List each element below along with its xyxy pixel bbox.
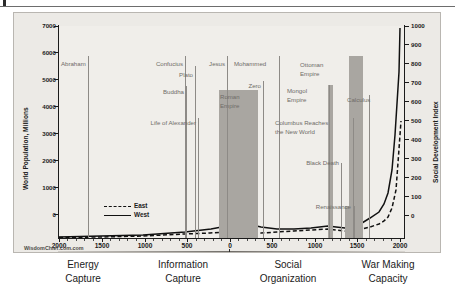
event-line-plato xyxy=(195,66,196,238)
event-line-abraham xyxy=(88,56,89,238)
y2-tick-label: 400 xyxy=(411,136,421,143)
legend-swatch-east xyxy=(104,206,131,207)
era-label-bce: BCE xyxy=(210,252,223,253)
chart-panel: World Population and Social Development … xyxy=(13,12,441,253)
y-tick-label: 6000 xyxy=(30,49,56,56)
y2-tick-label: 100 xyxy=(411,193,421,200)
x-tick-label: 2000 xyxy=(386,242,414,249)
category-war-making-capacity-line1: War Making xyxy=(328,258,448,272)
event-line-life-of-alexander xyxy=(198,118,199,238)
y-tick-label: 3000 xyxy=(30,130,56,137)
annotation-plato: Plato xyxy=(155,71,193,79)
category-information-capture-line2: Capture xyxy=(123,272,243,286)
page-top-rule xyxy=(0,0,455,7)
y2-tick-label: 200 xyxy=(411,174,421,181)
y-tick-label: 7000 xyxy=(30,22,56,29)
legend-item-west: West xyxy=(104,210,174,219)
x-tick-label: 1000 xyxy=(301,242,329,249)
annotation-roman-empire-line1: Roman xyxy=(220,93,240,100)
annotation-columbus: Columbus Reaches the New World xyxy=(275,118,328,136)
legend-label-west: West xyxy=(134,211,149,218)
chart-legend: East West xyxy=(104,201,174,219)
annotation-ottoman-empire: Ottoman Empire xyxy=(300,60,323,78)
category-information-capture-line1: Information xyxy=(123,258,243,272)
annotation-buddha: Buddha xyxy=(144,88,184,96)
event-line-confucius xyxy=(185,56,186,238)
watermark: WisdomChief.com.com xyxy=(24,245,84,251)
y2-tick-label: 900 xyxy=(411,41,421,48)
category-captions: Energy Capture Information Capture Socia… xyxy=(13,258,441,298)
x-tick-label: 500 xyxy=(173,242,201,249)
annotation-black-death: Black Death xyxy=(277,159,339,167)
event-line-mohammed xyxy=(279,56,280,238)
y2-tick-label: 600 xyxy=(411,98,421,105)
legend-item-east: East xyxy=(104,201,174,210)
event-line-jesus xyxy=(227,56,228,238)
event-line-buddha xyxy=(186,86,187,238)
y2-tick-label: 0 xyxy=(411,212,414,219)
horizontal-rule xyxy=(0,6,455,7)
category-information-capture: Information Capture xyxy=(123,258,243,286)
annotation-jesus: Jesus xyxy=(200,60,225,68)
x-tick-label: 1500 xyxy=(88,242,116,249)
chart-page: World Population and Social Development … xyxy=(0,0,455,302)
y-tick-label: 2000 xyxy=(30,157,56,164)
annotation-ottoman-empire-line2: Empire xyxy=(300,70,319,77)
legend-swatch-west xyxy=(104,215,131,216)
annotation-roman-empire: Roman Empire xyxy=(220,92,240,110)
y2-tick-label: 500 xyxy=(411,117,421,124)
legend-label-east: East xyxy=(134,202,148,209)
x-tick-label: 1000 xyxy=(131,242,159,249)
annotation-mongol-empire-line2: Empire xyxy=(287,96,306,103)
y2-tick-label: 800 xyxy=(411,60,421,67)
y-tick-label: 4000 xyxy=(30,103,56,110)
annotation-mongol-empire: Mongol Empire xyxy=(287,86,307,104)
annotation-abraham: Abraham xyxy=(61,60,86,68)
annotation-renaissance: Renaissance xyxy=(285,203,351,211)
y-axis-right-title: Social Development Index xyxy=(432,101,439,183)
x-tick-label: 0 xyxy=(216,242,244,249)
category-war-making-capacity-line2: Capacity xyxy=(328,272,448,286)
category-war-making-capacity: War Making Capacity xyxy=(328,258,448,286)
y-tick-label: 0 xyxy=(30,211,56,218)
y2-tick-label: 1000 xyxy=(411,22,425,29)
event-line-calculus xyxy=(369,95,370,238)
y2-tick-label: 300 xyxy=(411,155,421,162)
annotation-life-of-alexander: Life of Alexander xyxy=(129,119,196,127)
y-axis-left-title: World Population, Millions xyxy=(22,107,29,190)
event-bar-roman-empire xyxy=(219,90,258,238)
y-tick-label: 5000 xyxy=(30,76,56,83)
y-tick-label: 1000 xyxy=(30,184,56,191)
annotation-zero: Zero xyxy=(237,82,261,90)
x-tick-label: 1500 xyxy=(343,242,371,249)
event-line-black-death xyxy=(341,163,342,238)
era-label-ce: CE xyxy=(234,252,243,253)
annotation-columbus-line2: the New World xyxy=(275,128,315,135)
y2-tick-label: 700 xyxy=(411,79,421,86)
annotation-confucius: Confucius xyxy=(141,60,183,68)
annotation-ottoman-empire-line1: Ottoman xyxy=(300,61,323,68)
x-tick-label: 500 xyxy=(258,242,286,249)
event-line-zero xyxy=(263,81,264,238)
annotation-mongol-empire-line1: Mongol xyxy=(287,87,307,94)
annotation-calculus: Calculus xyxy=(347,96,370,104)
annotation-roman-empire-line2: Empire xyxy=(220,102,239,109)
annotation-mohammed: Mohammed xyxy=(234,60,266,68)
annotation-columbus-line1: Columbus Reaches xyxy=(275,119,328,126)
event-line-renaissance xyxy=(354,206,355,238)
